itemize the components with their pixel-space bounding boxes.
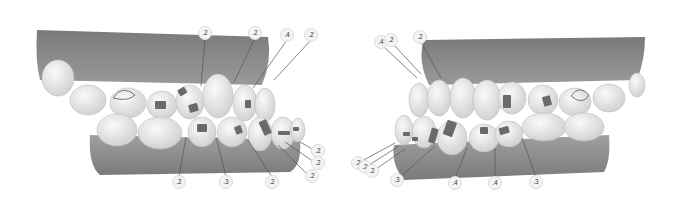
- annotation-label: .2: [365, 164, 379, 178]
- left-lateral-view: .4 .2 .2 .2 .2 .2 .3 .4 .4 .3: [339, 0, 677, 207]
- annotation-label: .2: [311, 156, 325, 170]
- annotation-label: .2: [305, 169, 319, 183]
- annotation-label: .2: [413, 30, 427, 44]
- annotation-label: .4: [280, 28, 294, 42]
- annotation-label: .3: [529, 175, 543, 189]
- annotation-label: .2: [265, 175, 279, 189]
- annotation-label: .4: [448, 176, 462, 190]
- annotation-label: .2: [172, 175, 186, 189]
- right-lateral-view: .2 .2 .4 .2 .2 .2 .2 .2 .3 .2: [0, 0, 338, 207]
- annotation-label: .3: [390, 173, 404, 187]
- annotation-label: .2: [304, 28, 318, 42]
- annotation-label: .4: [488, 176, 502, 190]
- annotation-label: .2: [248, 26, 262, 40]
- dental-arch-illustration-left: [339, 0, 677, 207]
- annotation-label: .2: [384, 33, 398, 47]
- annotation-label: .3: [219, 175, 233, 189]
- annotation-label: .2: [198, 26, 212, 40]
